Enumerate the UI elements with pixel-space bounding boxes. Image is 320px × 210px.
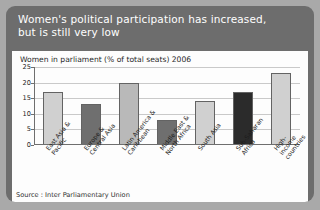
y-tick-label-20: 20 (23, 79, 31, 87)
title-panel: Women's political participation has incr… (6, 6, 314, 51)
y-tick-label-25: 25 (23, 63, 31, 71)
chart-card: Women's political participation has incr… (6, 6, 314, 202)
y-axis-ticks: 0510152025 (12, 67, 31, 145)
chart-subtitle: Women in parliament (% of total seats) 2… (20, 55, 191, 64)
page-title-line-1: Women's political participation has incr… (18, 13, 304, 26)
page-title-line-2: but is still very low (18, 26, 304, 39)
y-tick-label-10: 10 (23, 110, 31, 118)
source-note: Source : Inter Parliamentary Union (16, 191, 130, 199)
source-panel: Source : Inter Parliamentary Union (12, 189, 308, 202)
y-tick-label-15: 15 (23, 94, 31, 102)
x-axis-labels: East Asia & PacificEurope & Central Asia… (34, 146, 300, 190)
screenshot-root: Women's political participation has incr… (0, 0, 320, 210)
chart-panel: Women in parliament (% of total seats) 2… (12, 51, 308, 189)
